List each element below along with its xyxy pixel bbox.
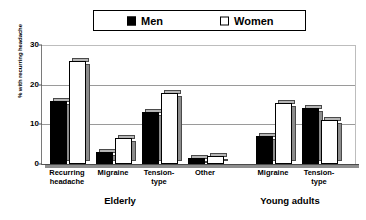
bar-men-1 [50,101,67,164]
y-tick-mark-20 [39,84,42,85]
bar-front-face [207,156,224,164]
outlined-square-icon [220,16,229,25]
y-tick-mark-0 [39,164,42,165]
bar-side-face [224,159,228,161]
bar-men-3 [142,112,159,164]
bar-side-face [86,64,90,161]
bar-front-face [188,158,205,164]
bar-front-face [256,136,273,164]
bar-women-4 [207,156,224,164]
bar-front-face [115,138,132,164]
bar-front-face [321,120,338,164]
y-tick-label-30: 30 [30,41,39,49]
category-label-line2: type [287,177,351,186]
category-label-line1: Other [173,168,237,177]
bar-women-6 [321,120,338,164]
bar-side-face [132,141,136,161]
bar-front-face [50,101,67,164]
plot-area: 30 20 10 0 [41,45,356,165]
bar-women-1 [69,61,86,164]
filled-square-icon [127,16,136,25]
bar-men-5 [256,136,273,164]
bar-men-4 [188,158,205,164]
bar-front-face [69,61,86,164]
bar-men-2 [96,152,113,164]
category-label-line2: headache [35,177,99,186]
category-label-line1: Tension- [287,168,351,177]
legend-label-women: Women [234,15,274,26]
y-tick-label-10: 10 [30,120,39,128]
legend-entry-men: Men [127,15,163,26]
bar-women-2 [115,138,132,164]
bar-side-face [292,106,296,161]
bar-men-6 [302,108,319,164]
y-tick-label-0: 0 [35,160,39,168]
bar-front-face [275,103,292,164]
bar-front-face [302,108,319,164]
y-tick-label-20: 20 [30,81,39,89]
legend-label-men: Men [141,15,163,26]
plot-right-edge [355,45,356,164]
bar-women-5 [275,103,292,164]
category-label-6: Tension-type [287,168,351,186]
y-tick-mark-10 [39,124,42,125]
gridline-30 [42,45,356,46]
chart-legend: Men Women [93,10,306,31]
bar-front-face [96,152,113,164]
category-label-4: Other [173,168,237,177]
bar-side-face [178,96,182,161]
headache-prevalence-bar-chart: Men Women % with recurring headache 30 2… [0,0,366,220]
group-label-young-adults: Young adults [230,196,350,206]
y-axis-title: % with recurring headache [17,1,23,121]
category-label-line2: type [127,177,191,186]
bar-side-face [338,123,342,161]
bar-front-face [161,93,178,164]
group-label-elderly: Elderly [60,196,180,206]
y-tick-mark-30 [39,45,42,46]
legend-entry-women: Women [220,15,274,26]
bar-women-3 [161,93,178,164]
bar-front-face [142,112,159,164]
